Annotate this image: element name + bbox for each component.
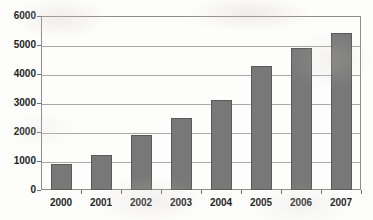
x-tick-label-2003: 2003 xyxy=(161,197,201,208)
gridline xyxy=(42,75,360,76)
y-tick-label: 5000 xyxy=(0,40,36,50)
gridline xyxy=(42,104,360,105)
x-tick-label-2004: 2004 xyxy=(201,197,241,208)
x-tick-mark xyxy=(161,190,162,194)
bar-chart: 0100020003000400050006000 20002001200220… xyxy=(0,0,373,220)
x-tick-mark xyxy=(81,190,82,194)
x-tick-label-2002: 2002 xyxy=(121,197,161,208)
y-tick-label: 3000 xyxy=(0,98,36,108)
x-tick-label-2005: 2005 xyxy=(241,197,281,208)
bar-2004 xyxy=(211,100,232,190)
gridline xyxy=(42,133,360,134)
x-tick-mark xyxy=(281,190,282,194)
plot-area xyxy=(41,16,361,190)
bar-2000 xyxy=(51,164,72,190)
bar-2006 xyxy=(291,48,312,190)
y-tick-mark xyxy=(37,16,41,17)
bar-2003 xyxy=(171,118,192,190)
gridline xyxy=(42,46,360,47)
y-tick-mark xyxy=(37,132,41,133)
bar-2007 xyxy=(331,33,352,190)
y-tick-label: 2000 xyxy=(0,127,36,137)
x-tick-mark xyxy=(241,190,242,194)
x-tick-mark xyxy=(121,190,122,194)
y-tick-label: 6000 xyxy=(0,11,36,21)
x-tick-label-2007: 2007 xyxy=(321,197,361,208)
bar-2005 xyxy=(251,66,272,190)
x-tick-label-2001: 2001 xyxy=(81,197,121,208)
y-tick-label: 4000 xyxy=(0,69,36,79)
x-tick-mark xyxy=(201,190,202,194)
x-tick-mark xyxy=(361,190,362,194)
x-tick-mark xyxy=(321,190,322,194)
y-tick-label: 1000 xyxy=(0,156,36,166)
y-tick-mark xyxy=(37,103,41,104)
y-tick-mark xyxy=(37,161,41,162)
y-axis: 0100020003000400050006000 xyxy=(0,16,36,190)
y-tick-mark xyxy=(37,74,41,75)
x-tick-label-2006: 2006 xyxy=(281,197,321,208)
y-tick-mark xyxy=(37,190,41,191)
y-tick-label: 0 xyxy=(0,185,36,195)
bar-2001 xyxy=(91,155,112,190)
y-tick-mark xyxy=(37,45,41,46)
x-tick-label-2000: 2000 xyxy=(41,197,81,208)
bar-2002 xyxy=(131,135,152,190)
